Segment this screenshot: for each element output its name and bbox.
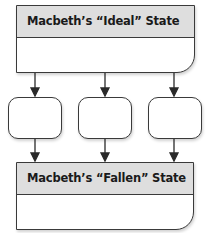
arrow-head-icon [170, 88, 178, 96]
connector-arrows [0, 0, 211, 233]
arrow-head-icon [170, 153, 178, 161]
arrow-head-icon [31, 153, 39, 161]
arrow-head-icon [101, 88, 109, 96]
arrow-head-icon [31, 88, 39, 96]
arrow-head-icon [101, 153, 109, 161]
